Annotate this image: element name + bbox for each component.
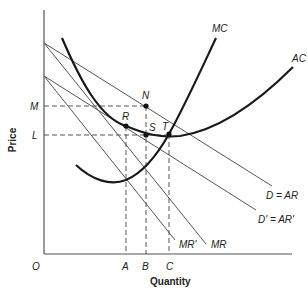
label-d-ar: D = AR bbox=[266, 190, 298, 201]
label-t: T bbox=[162, 121, 169, 132]
label-c: C bbox=[166, 261, 174, 272]
label-origin: O bbox=[32, 261, 40, 272]
label-mr: MR bbox=[211, 239, 227, 250]
demand-ar-prime-line bbox=[44, 76, 256, 210]
mr-prime-line bbox=[44, 76, 175, 240]
label-l: L bbox=[32, 130, 38, 141]
label-ac: AC bbox=[291, 53, 307, 64]
mr-line bbox=[44, 43, 206, 244]
point-t bbox=[166, 131, 171, 136]
ac-curve bbox=[62, 38, 293, 137]
label-d-ar-prime: D' = AR' bbox=[258, 214, 295, 225]
label-s: S bbox=[149, 122, 156, 133]
y-axis-title: Price bbox=[7, 127, 18, 152]
demand-ar-line bbox=[44, 43, 272, 186]
label-a: A bbox=[121, 261, 129, 272]
label-n: N bbox=[142, 90, 150, 101]
point-n bbox=[143, 103, 148, 108]
label-mr-prime: MR' bbox=[179, 239, 198, 250]
label-b: B bbox=[142, 261, 149, 272]
label-r: R bbox=[122, 111, 129, 122]
economics-diagram: N R S T M L O A B C MC AC D = AR D' = AR… bbox=[0, 0, 308, 296]
label-m: M bbox=[30, 101, 39, 112]
label-mc: MC bbox=[212, 23, 228, 34]
point-r bbox=[123, 123, 128, 128]
point-s bbox=[143, 132, 148, 137]
x-axis-title: Quantity bbox=[150, 276, 191, 287]
